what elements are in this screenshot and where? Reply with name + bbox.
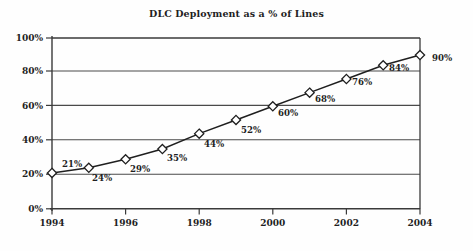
- y-axis-label-80: 80%: [22, 66, 44, 76]
- x-axis-label-2002: 2002: [334, 218, 359, 228]
- x-axis-label-2004: 2004: [407, 218, 432, 228]
- x-axis-tick-labels: 1994 1996 1998 2000 2002 2004: [39, 218, 432, 228]
- point-label-2001: 68%: [315, 94, 335, 104]
- point-label-1995: 24%: [92, 173, 112, 183]
- line-chart-plot: 0% 20% 40% 60% 80% 100% 1994 1996 1998 2…: [0, 0, 473, 251]
- point-label-2000: 60%: [278, 108, 298, 118]
- point-label-1996: 29%: [130, 164, 150, 174]
- chart-container: DLC Deployment as a % of Lines: [0, 0, 473, 251]
- y-axis-label-20: 20%: [22, 169, 44, 179]
- point-label-2004: 90%: [432, 53, 452, 63]
- y-axis-label-0: 0%: [28, 204, 43, 214]
- point-label-1994: 21%: [62, 159, 82, 169]
- point-label-2002: 76%: [352, 77, 372, 87]
- x-axis-label-1996: 1996: [113, 218, 138, 228]
- x-axis-label-1994: 1994: [39, 218, 64, 228]
- point-label-1999: 52%: [241, 125, 261, 135]
- y-axis-tick-labels: 0% 20% 40% 60% 80% 100%: [16, 33, 44, 214]
- point-label-1998: 44%: [204, 139, 224, 149]
- y-axis-label-40: 40%: [22, 135, 44, 145]
- y-axis-ticks: [46, 38, 52, 209]
- x-axis-label-2000: 2000: [260, 218, 285, 228]
- y-axis-label-100: 100%: [16, 33, 44, 43]
- x-axis-ticks: [52, 209, 420, 215]
- point-label-1997: 35%: [167, 153, 187, 163]
- y-axis-label-60: 60%: [22, 101, 44, 111]
- x-axis-label-1998: 1998: [187, 218, 212, 228]
- point-label-2003: 84%: [389, 63, 409, 73]
